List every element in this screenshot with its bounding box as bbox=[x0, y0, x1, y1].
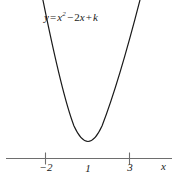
x-tick-label-3: 3 bbox=[127, 162, 133, 173]
x-tick-label-1: 1 bbox=[85, 163, 91, 174]
x-axis-label: x bbox=[161, 161, 166, 172]
equation-plus-sign: + bbox=[85, 11, 93, 23]
equation-annotation: y=x2−2x+k bbox=[44, 12, 98, 23]
equation-constant: k bbox=[93, 11, 98, 23]
equation-minus-sign: − bbox=[66, 11, 74, 23]
math-figure: y=x2−2x+k −2 1 3 x bbox=[0, 0, 178, 181]
graph-canvas bbox=[0, 0, 178, 181]
x-tick-label-neg2: −2 bbox=[40, 162, 53, 173]
